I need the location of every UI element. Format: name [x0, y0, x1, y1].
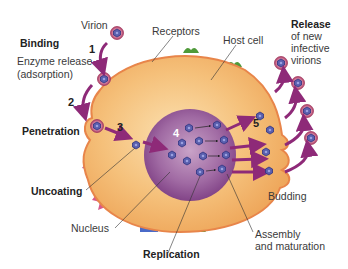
step-number-2: 2	[68, 96, 74, 108]
capsid-budding	[263, 148, 270, 156]
capsid-budding	[266, 167, 273, 175]
label-virions: virions	[291, 54, 321, 66]
label-release: Release	[291, 18, 331, 30]
virion-released	[292, 77, 305, 90]
label-nucleus: Nucleus	[71, 222, 109, 234]
virion-released	[305, 132, 318, 145]
step-number-1: 1	[89, 43, 95, 55]
virion-penetration	[91, 120, 104, 133]
label-penetration: Penetration	[22, 125, 80, 137]
label-receptors: Receptors	[152, 25, 200, 37]
capsid-uncoated	[133, 141, 140, 149]
label-assembly: Assembly	[255, 228, 301, 240]
label-binding: Binding	[20, 37, 59, 49]
label-replication: Replication	[143, 248, 200, 260]
step-number-4: 4	[173, 127, 180, 139]
capsid-budding	[267, 126, 274, 134]
virion-free	[111, 27, 124, 40]
step-number-5: 5	[253, 117, 259, 129]
virion-binding	[98, 73, 111, 86]
receptor	[183, 48, 199, 53]
label-of-new: of new	[291, 30, 322, 42]
label-budding: Budding	[268, 190, 307, 202]
virus-replication-diagram: Virion Receptors Host cell Binding Enzym…	[0, 0, 348, 269]
label-virion: Virion	[81, 19, 108, 31]
virion-released	[301, 105, 314, 118]
label-maturation: and maturation	[255, 240, 325, 252]
label-adsorption: (adsorption)	[17, 68, 73, 80]
virion-released	[275, 57, 288, 70]
step-number-3: 3	[117, 121, 123, 133]
label-uncoating: Uncoating	[31, 185, 82, 197]
label-infective: infective	[291, 42, 330, 54]
label-enzyme-release: Enzyme release	[17, 55, 92, 67]
label-host-cell: Host cell	[223, 34, 263, 46]
